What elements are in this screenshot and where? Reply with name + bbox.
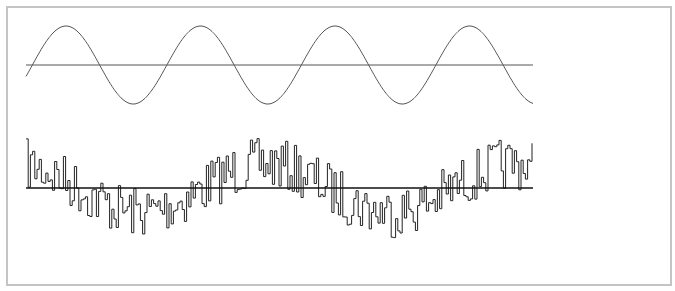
chart-canvas: [0, 0, 675, 291]
